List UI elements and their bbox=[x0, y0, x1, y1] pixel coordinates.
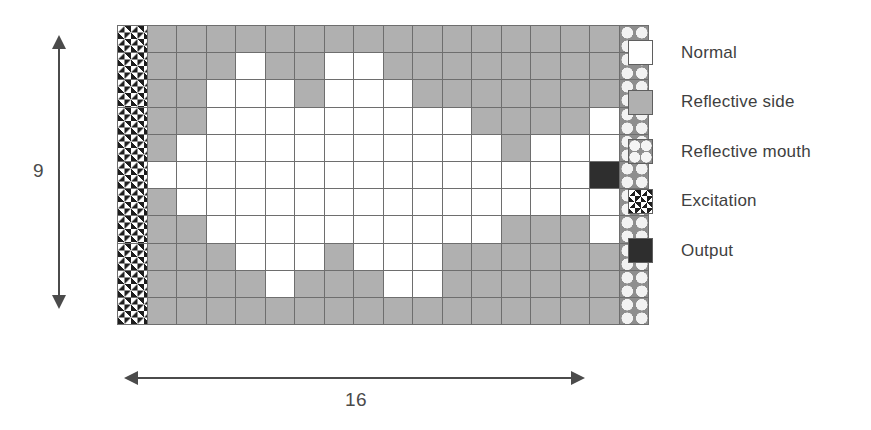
grid-cell-normal bbox=[236, 189, 266, 216]
grid-cell-normal bbox=[236, 107, 266, 134]
grid-cell-normal bbox=[265, 107, 295, 134]
grid-cell-side bbox=[442, 26, 472, 53]
grid-cell-side bbox=[501, 80, 531, 107]
grid-cell-normal bbox=[265, 270, 295, 297]
grid-cell-normal bbox=[383, 216, 413, 243]
grid-cell-side bbox=[324, 270, 354, 297]
grid-cell-mouth bbox=[619, 297, 649, 324]
grid-cell-normal bbox=[295, 189, 325, 216]
grid-cell-normal bbox=[147, 161, 177, 188]
grid-cell-side bbox=[177, 53, 207, 80]
legend-swatch-excite-icon bbox=[628, 189, 653, 214]
grid-cell-normal bbox=[413, 161, 443, 188]
grid-cell-side bbox=[472, 297, 502, 324]
grid-cell-normal bbox=[383, 189, 413, 216]
grid-cell-normal bbox=[324, 216, 354, 243]
grid-cell-normal bbox=[206, 80, 236, 107]
grid-cell-normal bbox=[324, 134, 354, 161]
grid-cell-normal bbox=[324, 189, 354, 216]
legend-swatch-normal-icon bbox=[628, 40, 653, 65]
grid-cell-side bbox=[560, 243, 590, 270]
grid-cell-normal bbox=[354, 161, 384, 188]
grid-cell-output bbox=[590, 161, 620, 188]
grid-cell-normal bbox=[354, 80, 384, 107]
grid-cell-side bbox=[147, 26, 177, 53]
grid-row bbox=[118, 161, 649, 188]
grid-cell-excite bbox=[118, 243, 148, 270]
grid-cell-excite bbox=[118, 107, 148, 134]
grid-cell-side bbox=[147, 53, 177, 80]
grid-cell-side bbox=[177, 26, 207, 53]
grid-cell-side bbox=[531, 216, 561, 243]
grid-table bbox=[117, 25, 649, 325]
legend-label: Normal bbox=[681, 43, 737, 63]
grid-cell-normal bbox=[560, 189, 590, 216]
grid-row bbox=[118, 297, 649, 324]
grid-cell-side bbox=[531, 270, 561, 297]
grid-cell-normal bbox=[206, 107, 236, 134]
grid-row bbox=[118, 53, 649, 80]
grid-cell-normal bbox=[265, 216, 295, 243]
grid-cell-side bbox=[472, 80, 502, 107]
grid-cell-normal bbox=[413, 107, 443, 134]
grid-cell-side bbox=[177, 270, 207, 297]
grid-cell-normal bbox=[383, 270, 413, 297]
grid-cell-side bbox=[324, 297, 354, 324]
grid-cell-side bbox=[295, 53, 325, 80]
grid-cell-normal bbox=[354, 53, 384, 80]
grid-cell-side bbox=[442, 53, 472, 80]
vertical-dimension-arrow bbox=[58, 48, 60, 296]
grid-cell-excite bbox=[118, 297, 148, 324]
grid-cell-side bbox=[413, 80, 443, 107]
grid-cell-normal bbox=[236, 243, 266, 270]
grid-cell-side bbox=[236, 26, 266, 53]
grid-cell-side bbox=[472, 107, 502, 134]
grid-cell-side bbox=[501, 243, 531, 270]
grid-cell-side bbox=[206, 53, 236, 80]
grid-cell-normal bbox=[472, 216, 502, 243]
grid-cell-normal bbox=[324, 161, 354, 188]
grid-cell-side bbox=[177, 297, 207, 324]
vertical-dimension-label: 9 bbox=[33, 160, 44, 182]
grid-cell-excite bbox=[118, 161, 148, 188]
grid-cell-normal bbox=[442, 216, 472, 243]
grid-cell-side bbox=[531, 107, 561, 134]
grid-cell-normal bbox=[442, 161, 472, 188]
grid-cell-normal bbox=[177, 189, 207, 216]
grid-cell-normal bbox=[206, 216, 236, 243]
grid-cell-normal bbox=[324, 53, 354, 80]
grid-cell-side bbox=[295, 297, 325, 324]
grid-cell-side bbox=[472, 243, 502, 270]
grid-cell-side bbox=[147, 134, 177, 161]
grid-cell-normal bbox=[236, 134, 266, 161]
grid-cell-normal bbox=[295, 216, 325, 243]
grid-cell-side bbox=[590, 80, 620, 107]
grid-cell-side bbox=[206, 243, 236, 270]
grid-cell-side bbox=[442, 297, 472, 324]
grid-cell-normal bbox=[472, 189, 502, 216]
grid-cell-side bbox=[236, 270, 266, 297]
grid-cell-side bbox=[560, 107, 590, 134]
grid-cell-normal bbox=[442, 134, 472, 161]
grid-cell-side bbox=[501, 134, 531, 161]
grid-cell-side bbox=[590, 26, 620, 53]
grid-cell-excite bbox=[118, 80, 148, 107]
grid-cell-normal bbox=[265, 134, 295, 161]
grid-cell-normal bbox=[413, 134, 443, 161]
grid-cell-side bbox=[501, 53, 531, 80]
grid-cell-normal bbox=[265, 161, 295, 188]
grid-cell-normal bbox=[590, 216, 620, 243]
legend-swatch-side-icon bbox=[628, 90, 653, 115]
grid-cell-normal bbox=[590, 189, 620, 216]
grid-cell-excite bbox=[118, 216, 148, 243]
grid-cell-side bbox=[147, 297, 177, 324]
legend-item-excite: Excitation bbox=[628, 177, 811, 227]
grid-row bbox=[118, 80, 649, 107]
grid-row bbox=[118, 134, 649, 161]
grid-cell-normal bbox=[354, 134, 384, 161]
grid-cell-side bbox=[590, 270, 620, 297]
grid-row bbox=[118, 270, 649, 297]
grid-cell-side bbox=[472, 270, 502, 297]
grid-cell-side bbox=[177, 243, 207, 270]
horizontal-dimension-arrow bbox=[137, 377, 572, 379]
